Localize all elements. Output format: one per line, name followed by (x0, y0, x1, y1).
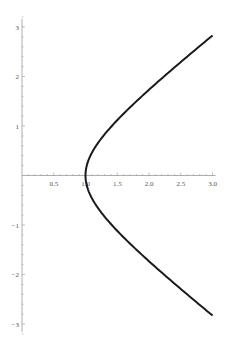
hyperbola-chart: 0.51.01.52.02.53.0321−1−2−3 (0, 0, 228, 342)
y-tick-label: 1 (16, 123, 20, 131)
y-tick-label: 2 (16, 73, 20, 81)
axes (22, 19, 216, 332)
x-tick-label: 2.5 (176, 180, 185, 188)
x-tick-label: 1.5 (113, 180, 122, 188)
x-tick-label: 3.0 (208, 180, 217, 188)
x-tick-label: 0.5 (49, 180, 58, 188)
tick-labels: 0.51.01.52.02.53.0321−1−2−3 (12, 24, 218, 329)
y-tick-label: 3 (16, 24, 20, 32)
y-tick-label: −1 (12, 222, 20, 230)
y-tick-label: −2 (12, 271, 20, 279)
x-tick-label: 2.0 (145, 180, 154, 188)
y-tick-label: −3 (12, 321, 20, 329)
